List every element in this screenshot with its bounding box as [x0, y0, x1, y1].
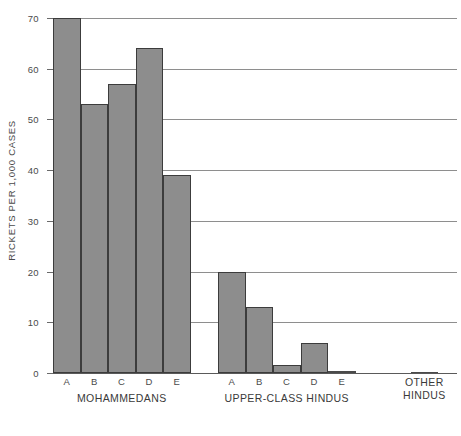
- x-category-label: C: [283, 376, 290, 387]
- bar: [273, 365, 301, 373]
- x-category-label: D: [146, 376, 153, 387]
- y-tick-label-10: 10: [0, 317, 39, 328]
- y-tick-label-70: 70: [0, 13, 39, 24]
- y-tick-label-60: 60: [0, 63, 39, 74]
- x-group-label: UPPER-CLASS HINDUS: [225, 392, 349, 404]
- x-group-label-line: HINDUS: [403, 389, 446, 402]
- bar: [81, 104, 109, 373]
- x-group-label-line: OTHER: [403, 376, 446, 389]
- gridline-60: [53, 69, 457, 70]
- x-category-label: E: [338, 376, 345, 387]
- bar: [301, 343, 329, 373]
- y-tick-label-40: 40: [0, 165, 39, 176]
- bar: [218, 272, 246, 373]
- bar: [108, 84, 136, 373]
- x-category-label: C: [118, 376, 125, 387]
- x-category-label: A: [63, 376, 70, 387]
- y-axis-tick-layer: 010203040506070: [0, 0, 53, 436]
- x-group-label: MOHAMMEDANS: [77, 392, 167, 404]
- bar: [163, 175, 191, 373]
- gridline-70: [53, 18, 457, 19]
- x-category-label: D: [311, 376, 318, 387]
- x-axis-label-layer: ABCDEMOHAMMEDANSABCDEUPPER-CLASS HINDUSO…: [53, 373, 457, 436]
- bar: [246, 307, 274, 373]
- bar: [53, 18, 81, 373]
- plot-area: [53, 18, 457, 373]
- x-category-label: A: [228, 376, 235, 387]
- x-category-label: B: [256, 376, 263, 387]
- bar: [136, 48, 164, 373]
- y-tick-label-30: 30: [0, 215, 39, 226]
- y-tick-label-50: 50: [0, 114, 39, 125]
- x-group-label-line: UPPER-CLASS HINDUS: [225, 392, 349, 404]
- rickets-bar-chart: RICKETS PER 1,000 CASES 010203040506070 …: [0, 0, 461, 436]
- y-tick-label-0: 0: [0, 368, 39, 379]
- x-category-label: B: [91, 376, 98, 387]
- x-group-label: OTHERHINDUS: [403, 376, 446, 402]
- x-group-label-line: MOHAMMEDANS: [77, 392, 167, 404]
- y-tick-label-20: 20: [0, 266, 39, 277]
- x-category-label: E: [173, 376, 180, 387]
